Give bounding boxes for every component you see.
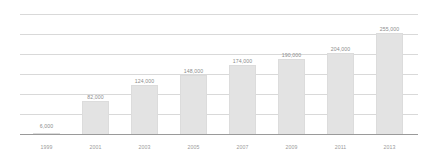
bar-chart: 6,000 82,000 124,000 148,000 174,000 190… [0, 0, 430, 163]
x-axis-tick-labels: 1999 2001 2003 2005 2007 2009 2011 2013 [0, 0, 430, 163]
tick-label-2005: 2005 [168, 144, 219, 150]
tick-label-2009: 2009 [266, 144, 317, 150]
tick-label-1999: 1999 [21, 144, 72, 150]
tick-label-2007: 2007 [217, 144, 268, 150]
tick-label-2001: 2001 [70, 144, 121, 150]
tick-label-2011: 2011 [315, 144, 366, 150]
tick-label-2003: 2003 [119, 144, 170, 150]
tick-label-2013: 2013 [364, 144, 415, 150]
